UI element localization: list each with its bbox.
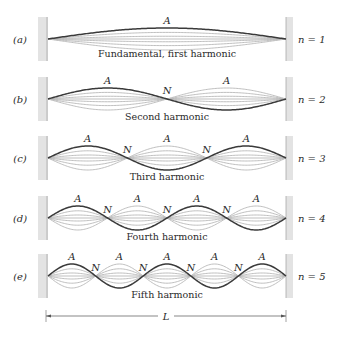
node-label: N [102, 204, 113, 215]
antinode-label: A [192, 193, 200, 204]
harmonic-row-n5: (e)n = 5Fifth harmonicAAAAANNNN [13, 251, 325, 300]
row-label: (b) [13, 94, 27, 105]
left-wall [38, 254, 48, 298]
harmonic-caption: Third harmonic [130, 171, 205, 182]
harmonic-number-label: n = 1 [298, 34, 326, 45]
antinode-label: A [162, 15, 170, 26]
harmonic-number-label: n = 4 [298, 213, 326, 224]
harmonic-row-n4: (d)n = 4Fourth harmonicAAAANNN [13, 193, 326, 242]
antinode-label: A [115, 251, 123, 262]
right-wall [286, 17, 293, 61]
row-label: (d) [13, 213, 27, 224]
standing-wave-harmonics-diagram: (a)n = 1Fundamental, first harmonicA(b)n… [0, 0, 343, 344]
left-wall [38, 136, 48, 180]
harmonic-caption: Fourth harmonic [127, 231, 208, 242]
harmonic-row-n2: (b)n = 2Second harmonicAAN [13, 75, 326, 122]
arrowhead-left-icon [46, 314, 51, 317]
antinode-label: A [133, 193, 141, 204]
harmonic-row-n3: (c)n = 3Third harmonicAAANN [13, 133, 325, 182]
node-label: N [138, 262, 149, 273]
node-label: N [90, 262, 101, 273]
antinode-label: A [73, 193, 81, 204]
antinode-label: A [103, 75, 111, 86]
node-label: N [162, 204, 173, 215]
node-label: N [185, 262, 196, 273]
row-label: (a) [13, 34, 27, 45]
harmonic-caption: Fundamental, first harmonic [98, 48, 236, 59]
arrowhead-right-icon [281, 314, 286, 317]
row-label: (e) [13, 271, 27, 282]
node-label: N [221, 204, 232, 215]
right-wall [286, 196, 293, 240]
harmonic-caption: Second harmonic [125, 111, 209, 122]
right-wall [286, 77, 293, 121]
harmonic-number-label: n = 3 [298, 153, 326, 164]
antinode-label: A [222, 75, 230, 86]
harmonic-number-label: n = 5 [298, 271, 326, 282]
left-wall [38, 196, 48, 240]
right-wall [286, 136, 293, 180]
antinode-label: A [162, 251, 170, 262]
harmonic-row-n1: (a)n = 1Fundamental, first harmonicA [13, 15, 325, 61]
node-label: N [122, 144, 133, 155]
antinode-label: A [242, 133, 250, 144]
antinode-label: A [258, 251, 266, 262]
harmonic-number-label: n = 2 [298, 94, 326, 105]
node-label: N [233, 262, 244, 273]
length-label: L [162, 311, 170, 322]
node-label: N [162, 85, 173, 96]
left-wall [38, 17, 48, 61]
antinode-label: A [162, 133, 170, 144]
antinode-label: A [252, 193, 260, 204]
left-wall [38, 77, 48, 121]
right-wall [286, 254, 293, 298]
antinode-label: A [67, 251, 75, 262]
antinode-label: A [83, 133, 91, 144]
harmonic-caption: Fifth harmonic [131, 289, 203, 300]
antinode-label: A [210, 251, 218, 262]
row-label: (c) [13, 153, 27, 164]
node-label: N [201, 144, 212, 155]
length-marker: L [46, 310, 286, 322]
